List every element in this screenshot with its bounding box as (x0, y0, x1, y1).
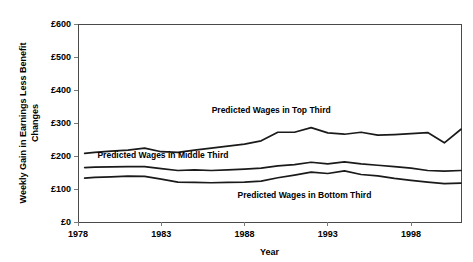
x-axis-ticks (78, 222, 411, 226)
y-tick-label-100: £100 (51, 184, 71, 194)
x-tick-label-1993: 1993 (318, 229, 338, 239)
line-chart: £0£100£200£300£400£500£600 1978198319881… (0, 0, 473, 262)
series-line-1 (85, 162, 461, 171)
y-axis-title-line1: Weekly Gain in Earnings Less Benefit (18, 43, 28, 204)
y-axis-title: Weekly Gain in Earnings Less Benefit Cha… (18, 43, 40, 204)
y-tick-label-500: £500 (51, 52, 71, 62)
y-axis-title-line2: Changes (30, 104, 40, 142)
y-tick-label-600: £600 (51, 19, 71, 29)
chart-container: £0£100£200£300£400£500£600 1978198319881… (0, 0, 473, 262)
series-line-2 (85, 171, 461, 184)
y-tick-label-300: £300 (51, 118, 71, 128)
x-tick-label-1988: 1988 (235, 229, 255, 239)
x-tick-label-1998: 1998 (401, 229, 421, 239)
series-label-2: Predicted Wages in Bottom Third (238, 190, 372, 200)
x-axis-tick-labels: 19781983198819931998 (68, 229, 421, 239)
series-annotations-group: Predicted Wages in Top ThirdPredicted Wa… (97, 105, 371, 199)
y-tick-label-0: £0 (61, 217, 71, 227)
x-tick-label-1978: 1978 (68, 229, 88, 239)
series-label-1: Predicted Wages in Middle Third (97, 150, 228, 160)
y-tick-label-200: £200 (51, 151, 71, 161)
y-tick-label-400: £400 (51, 85, 71, 95)
y-axis-ticks (74, 24, 78, 222)
series-label-0: Predicted Wages in Top Third (212, 105, 331, 115)
x-axis-title: Year (260, 247, 280, 257)
y-axis-tick-labels: £0£100£200£300£400£500£600 (51, 19, 71, 227)
x-tick-label-1983: 1983 (151, 229, 171, 239)
